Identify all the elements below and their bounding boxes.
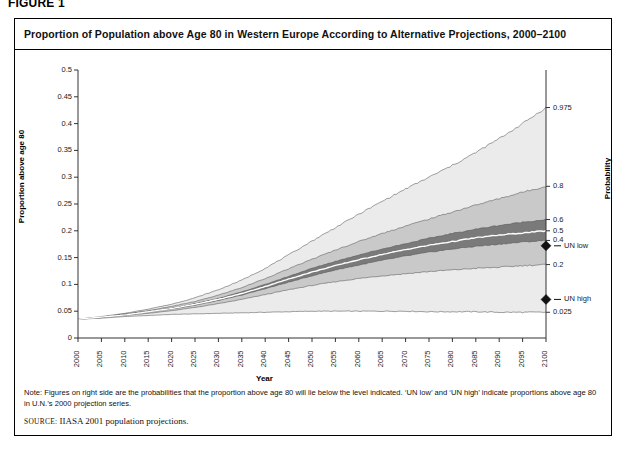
right-axis-label: Probability	[603, 124, 612, 234]
y-axis-label: Proportion above age 80	[17, 112, 26, 242]
y-tick-label: 0.2	[38, 226, 72, 235]
x-tick-label: 2005	[95, 351, 104, 381]
y-tick-label: 0.45	[38, 92, 72, 101]
source-text: IIASA 2001 population projections.	[60, 416, 189, 426]
x-tick-label: 2025	[189, 351, 198, 381]
probability-tick-label: 0.4	[553, 235, 563, 244]
probability-tick-label: 0.5	[553, 226, 563, 235]
figure-source: SOURCE: IIASA 2001 population projection…	[24, 416, 602, 426]
x-tick-label: 2080	[446, 351, 455, 381]
x-tick-label: 2045	[282, 351, 291, 381]
x-tick-label: 2060	[352, 351, 361, 381]
marker-label-un-low: UN low	[564, 241, 588, 250]
marker-label-un-high: UN high	[564, 294, 591, 303]
y-tick-label: 0	[38, 333, 72, 342]
x-tick-label: 2075	[423, 351, 432, 381]
x-tick-label: 2070	[399, 351, 408, 381]
y-tick-label: 0.05	[38, 306, 72, 315]
probability-tick-label: 0.975	[553, 103, 572, 112]
x-tick-label: 2015	[142, 351, 151, 381]
y-tick-label: 0.4	[38, 119, 72, 128]
y-tick-label: 0.25	[38, 199, 72, 208]
x-tick-label: 2100	[540, 351, 549, 381]
probability-tick-label: 0.6	[553, 215, 563, 224]
source-prefix: SOURCE:	[24, 417, 57, 426]
x-tick-label: 2010	[118, 351, 127, 381]
fan-chart-svg	[0, 0, 628, 449]
x-tick-label: 2040	[259, 351, 268, 381]
x-tick-label: 2055	[329, 351, 338, 381]
x-tick-label: 2000	[72, 351, 81, 381]
x-tick-label: 2090	[493, 351, 502, 381]
y-tick-label: 0.1	[38, 279, 72, 288]
y-tick-label: 0.15	[38, 253, 72, 262]
x-tick-label: 2065	[376, 351, 385, 381]
probability-tick-label: 0.025	[553, 307, 572, 316]
chart-plot-area: Proportion above age 80 Year Probability…	[0, 0, 628, 449]
y-tick-label: 0.5	[38, 65, 72, 74]
x-tick-label: 2050	[306, 351, 315, 381]
figure-note: Note: Figures on right side are the prob…	[24, 388, 602, 409]
probability-tick-label: 0.8	[553, 181, 563, 190]
x-tick-label: 2095	[516, 351, 525, 381]
probability-tick-label: 0.2	[553, 260, 563, 269]
y-tick-label: 0.35	[38, 145, 72, 154]
x-tick-label: 2035	[235, 351, 244, 381]
x-tick-label: 2030	[212, 351, 221, 381]
y-tick-label: 0.3	[38, 172, 72, 181]
x-tick-label: 2020	[165, 351, 174, 381]
x-tick-label: 2085	[469, 351, 478, 381]
